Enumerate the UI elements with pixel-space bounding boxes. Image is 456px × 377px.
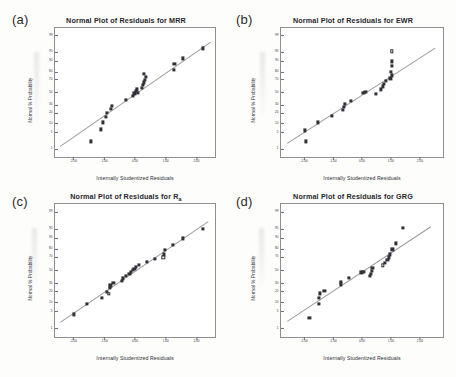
y-tick-label: 99	[275, 211, 281, 214]
chart-title-a: Normal Plot of Residuals for MRR	[28, 16, 224, 25]
y-tick-label: 20	[275, 290, 281, 293]
data-point	[388, 253, 391, 256]
panel-label-b: (b)	[236, 12, 253, 27]
panel-label-c: (c)	[12, 194, 28, 209]
data-point	[124, 98, 127, 101]
data-point	[154, 257, 157, 260]
x-tick-label: 0.00	[132, 157, 138, 163]
data-point	[181, 237, 184, 240]
y-tick-label: 99	[49, 211, 55, 214]
data-point	[173, 62, 176, 65]
x-axis-label-a: Internally Studentized Residuals	[54, 175, 216, 181]
data-point	[323, 289, 326, 292]
x-tick-label: 1.00	[163, 337, 169, 343]
x-axis-label-c: Internally Studentized Residuals	[54, 355, 216, 361]
data-point	[389, 70, 392, 73]
x-axis-label-b: Internally Studentized Residuals	[280, 175, 444, 181]
data-point	[349, 99, 352, 102]
data-point	[316, 121, 319, 124]
data-point	[72, 313, 75, 316]
chart-title-b-text: Normal Plot of Residuals for EWR	[293, 16, 413, 25]
y-tick-label: 80	[275, 70, 281, 73]
y-tick-label: 30	[275, 282, 281, 285]
x-tick-label: -1.00	[101, 157, 108, 163]
y-tick-label: 50	[275, 269, 281, 272]
y-tick-label: 70	[275, 256, 281, 259]
chart-title-c-text: Normal Plot of Residuals for R	[70, 192, 178, 201]
y-tick-label: 95	[49, 228, 55, 231]
y-tick-label: 20	[49, 290, 55, 293]
y-tick-label: 80	[49, 70, 55, 73]
data-point	[389, 77, 392, 80]
data-point	[342, 105, 345, 108]
data-point	[181, 57, 184, 60]
x-tick-label: 0.00	[132, 337, 138, 343]
data-point	[317, 296, 320, 299]
chart-ewr: Normal Plot of Residuals for EWR Normal …	[254, 16, 452, 184]
data-point	[387, 256, 390, 259]
plot-area-d: 15102030507080909599-2.00-1.000.001.002.…	[281, 204, 443, 337]
data-point	[330, 115, 333, 118]
data-point	[364, 91, 367, 94]
chart-title-c-subscript: a	[179, 196, 182, 202]
y-tick-label: 50	[275, 91, 281, 94]
data-point	[318, 303, 321, 306]
data-point	[109, 107, 112, 110]
reference-line	[287, 48, 435, 144]
x-tick-label: 0.00	[359, 337, 365, 343]
data-point	[347, 277, 350, 280]
data-point	[142, 72, 145, 75]
y-axis-label-b: Normal % Probability	[251, 78, 256, 123]
plot-area-b: 15102030507080909599-2.00-1.000.001.002.…	[281, 28, 443, 157]
data-point	[144, 78, 147, 81]
data-point	[374, 92, 377, 95]
y-tick-label: 90	[275, 237, 281, 240]
data-point	[343, 102, 346, 105]
y-tick-label: 70	[49, 256, 55, 259]
plot-frame-c: 15102030507080909599-2.00-1.000.001.002.…	[54, 203, 216, 338]
data-point	[106, 290, 109, 293]
data-point	[108, 287, 111, 290]
x-tick-label: 2.00	[417, 157, 423, 163]
chart-title-b: Normal Plot of Residuals for EWR	[254, 16, 452, 25]
y-tick-label: 1	[277, 327, 281, 330]
x-tick-label: -2.00	[301, 337, 308, 343]
reference-line	[287, 227, 431, 322]
y-tick-label: 1	[51, 327, 55, 330]
data-point	[390, 74, 393, 77]
chart-title-d-text: Normal Plot of Residuals for GRG	[293, 192, 413, 201]
y-axis-label-d: Normal % Probability	[251, 256, 256, 301]
y-tick-label: 80	[49, 248, 55, 251]
y-tick-label: 5	[51, 131, 55, 134]
data-point	[362, 270, 365, 273]
panel-d: (d) Normal Plot of Residuals for GRG Nor…	[228, 190, 456, 377]
x-tick-label: -2.00	[70, 337, 77, 343]
data-point	[100, 296, 103, 299]
plot-area-c: 15102030507080909599-2.00-1.000.001.002.…	[55, 204, 215, 337]
y-tick-label: 30	[49, 282, 55, 285]
y-tick-label: 5	[277, 131, 281, 134]
data-point	[390, 50, 393, 53]
y-tick-label: 5	[51, 310, 55, 313]
y-tick-label: 95	[275, 228, 281, 231]
y-tick-label: 10	[275, 301, 281, 304]
y-tick-label: 70	[49, 78, 55, 81]
y-axis-label-a: Normal % Probability	[28, 78, 33, 123]
y-axis-label-c: Normal % Probability	[28, 256, 33, 301]
data-point	[390, 65, 393, 68]
y-tick-label: 90	[49, 60, 55, 63]
data-point	[303, 129, 306, 132]
x-tick-label: -1.00	[101, 337, 108, 343]
data-point	[137, 264, 140, 267]
data-point	[384, 80, 387, 83]
data-point	[369, 272, 372, 275]
data-point	[136, 91, 139, 94]
data-point	[101, 121, 104, 124]
x-tick-label: -2.00	[301, 157, 308, 163]
x-tick-label: 2.00	[193, 337, 199, 343]
x-tick-label: -1.00	[329, 337, 336, 343]
data-point	[395, 242, 398, 245]
plot-frame-b: 15102030507080909599-2.00-1.000.001.002.…	[280, 27, 444, 158]
y-tick-label: 1	[51, 148, 55, 151]
plot-frame-d: 15102030507080909599-2.00-1.000.001.002.…	[280, 203, 444, 338]
